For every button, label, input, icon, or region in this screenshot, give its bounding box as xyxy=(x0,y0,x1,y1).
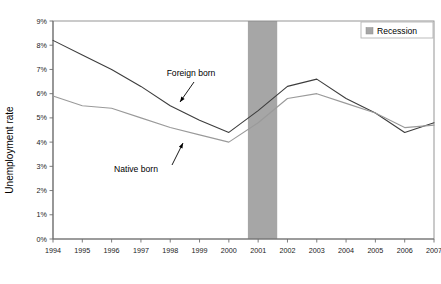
y-tick-label: 0% xyxy=(37,235,48,244)
y-axis-title: Unemployment rate xyxy=(4,106,15,194)
x-tick-label: 1994 xyxy=(45,246,61,255)
x-tick-label: 1998 xyxy=(162,246,178,255)
x-tick-label: 2007 xyxy=(426,246,441,255)
x-tick-label: 2002 xyxy=(279,246,295,255)
unemployment-rate-line-chart: 0%1%2%3%4%5%6%7%8%9% 1994199519961997199… xyxy=(0,0,441,284)
y-tick-label: 5% xyxy=(37,113,48,122)
recession-band xyxy=(248,21,277,239)
x-tick-label: 1997 xyxy=(133,246,149,255)
x-axis: 1994199519961997199819992000200120022003… xyxy=(45,239,441,255)
y-tick-label: 6% xyxy=(37,89,48,98)
y-axis-title-label: Unemployment rate xyxy=(4,106,15,194)
y-tick-label: 1% xyxy=(37,210,48,219)
plot-background xyxy=(53,21,434,239)
x-tick-label: 1999 xyxy=(192,246,208,255)
y-tick-label: 8% xyxy=(37,41,48,50)
y-axis-ticks: 0%1%2%3%4%5%6%7%8%9% xyxy=(37,17,53,244)
x-tick-label: 2006 xyxy=(397,246,413,255)
x-tick-label: 2000 xyxy=(221,246,237,255)
chart-container: 0%1%2%3%4%5%6%7%8%9% 1994199519961997199… xyxy=(0,0,441,284)
y-tick-label: 4% xyxy=(37,138,48,147)
annotation-label-native-born: Native born xyxy=(114,164,158,174)
y-tick-label: 7% xyxy=(37,65,48,74)
y-axis: 0%1%2%3%4%5%6%7%8%9% xyxy=(37,17,53,244)
x-tick-label: 2005 xyxy=(367,246,383,255)
x-tick-label: 2003 xyxy=(309,246,325,255)
legend-swatch-recession xyxy=(366,28,373,35)
annotation-label-foreign-born: Foreign born xyxy=(167,68,216,78)
x-axis-ticks: 1994199519961997199819992000200120022003… xyxy=(45,239,441,255)
x-tick-label: 1996 xyxy=(104,246,120,255)
y-tick-label: 2% xyxy=(37,186,48,195)
y-tick-label: 9% xyxy=(37,17,48,26)
y-tick-label: 3% xyxy=(37,162,48,171)
x-tick-label: 2001 xyxy=(250,246,266,255)
legend-label-recession: Recession xyxy=(377,26,417,36)
recession-shaded-band xyxy=(248,21,277,239)
chart-legend: Recession xyxy=(361,22,433,38)
x-tick-label: 1995 xyxy=(74,246,90,255)
x-tick-label: 2004 xyxy=(338,246,354,255)
